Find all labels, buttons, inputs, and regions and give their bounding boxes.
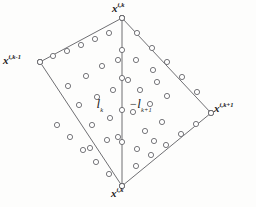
interior-node [107,115,112,120]
interior-node [104,137,109,142]
vertex-bottom-superscript: i,k [117,186,124,193]
vertex-top-superscript: i,k [118,1,125,8]
edge-node-median [119,75,124,80]
region-right-subscript: k+1 [141,106,152,113]
interior-node [137,87,142,92]
edge-bottom-to-left [40,62,122,186]
edge-node-right_to_bottom [163,142,168,147]
interior-node [150,67,155,72]
edge-node-median [119,139,124,144]
vertex-label-bottom: xi,k [111,187,123,199]
edge-node-bottom_to_left [67,134,72,139]
interior-node [115,57,120,62]
figure-canvas: xi,k xi,k-1 xi,k+1 xi,k lk −lk+1 [0,0,256,207]
interior-node [115,134,120,139]
edge-node-top_to_right [194,89,199,94]
interior-node [83,73,88,78]
interior-node [159,119,164,124]
interior-node [89,122,94,127]
edge-node-right_to_bottom [178,131,183,136]
edge-node-right_to_bottom [148,152,153,157]
vertex-label-right: xi,k+1 [214,102,234,114]
edge-node-bottom_to_left [93,159,98,164]
interior-node [76,102,81,107]
interior-node [134,146,139,151]
edge-node-left_to_top [50,53,55,58]
vertex-label-left: xi,k-1 [3,54,21,66]
edge-node-left_to_top [92,36,97,41]
edge-node-bottom_to_left [80,147,85,152]
edge-node-left_to_top [64,48,69,53]
edge-node-right_to_bottom [193,121,198,126]
edge-node-right_to_bottom [133,163,138,168]
vertex-right-superscript: i,k+1 [220,101,234,108]
interior-node [65,83,70,88]
region-left-subscript: k [100,106,103,113]
edge-node-median [119,47,124,52]
nodes-group [37,15,213,188]
interior-node [125,77,130,82]
edge-node-top_to_right [149,45,154,50]
interior-node [110,87,115,92]
interior-node [154,79,159,84]
interior-node [87,145,92,150]
edge-node-bottom_to_left [106,171,111,176]
region-label-right: −lk+1 [130,97,152,113]
interior-node [164,93,169,98]
vertex-node-top [119,15,124,20]
edge-node-left_to_top [78,42,83,47]
edge-node-median [119,107,124,112]
interior-node [133,57,138,62]
edges-group [40,18,211,186]
interior-node [142,128,147,133]
vertex-left-superscript: i,k-1 [9,53,22,60]
interior-node [99,63,104,68]
interior-node [151,138,156,143]
edge-node-bottom_to_left [54,122,59,127]
edge-node-top_to_right [164,59,169,64]
edge-node-top_to_right [134,30,139,35]
edge-node-left_to_top [106,30,111,35]
vertex-node-left [37,59,42,64]
vertex-label-top: xi,k [112,2,124,14]
vertex-node-right [208,110,213,115]
region-label-left: lk [96,97,103,113]
edge-node-top_to_right [179,74,184,79]
